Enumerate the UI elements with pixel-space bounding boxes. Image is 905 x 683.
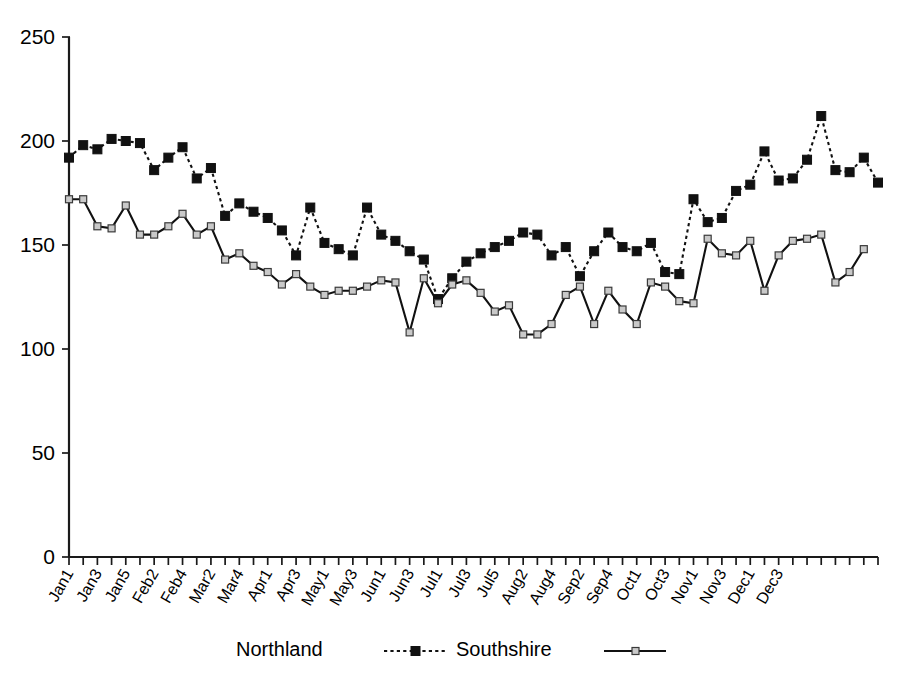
x-axis-tick-label: Mar2	[186, 566, 219, 606]
data-point	[435, 300, 442, 307]
data-point	[263, 213, 272, 222]
data-point	[165, 223, 172, 230]
data-point	[633, 321, 640, 328]
data-point	[206, 164, 215, 173]
data-point	[846, 269, 853, 276]
data-point	[717, 213, 726, 222]
x-axis-tick-label: Aug2	[497, 566, 530, 607]
data-point	[690, 300, 697, 307]
x-axis-tick-label: May1	[298, 566, 332, 608]
data-point	[65, 153, 74, 162]
data-point	[632, 247, 641, 256]
data-point	[392, 279, 399, 286]
data-point	[504, 236, 513, 245]
data-point	[107, 134, 116, 143]
x-axis-tick-label: Jul1	[416, 566, 445, 600]
y-axis: 050100150200250	[20, 25, 70, 568]
data-point	[462, 257, 471, 266]
data-point	[108, 225, 115, 232]
legend-label-northland: Northland	[236, 638, 323, 660]
data-point	[364, 283, 371, 290]
x-axis-tick-label: May3	[326, 566, 360, 608]
data-point	[547, 251, 556, 260]
x-axis-tick-label: Aug4	[526, 566, 559, 607]
data-point	[534, 331, 541, 338]
x-axis-tick-label: Oct1	[613, 566, 645, 604]
x-axis-tick-label: Jun1	[357, 566, 389, 605]
data-point	[618, 243, 627, 252]
data-point	[646, 238, 655, 247]
data-point	[235, 199, 244, 208]
data-point	[236, 250, 243, 257]
data-point	[575, 272, 584, 281]
data-point	[349, 287, 356, 294]
series-markers-southshire	[66, 196, 868, 338]
data-point	[774, 176, 783, 185]
data-point	[135, 139, 144, 148]
data-point	[66, 196, 73, 203]
y-axis-tick-label: 100	[20, 337, 55, 360]
x-axis-tick-label: Jul5	[473, 566, 502, 600]
data-point	[80, 196, 87, 203]
series-layer	[65, 112, 883, 338]
data-point	[121, 137, 130, 146]
x-axis-tick-label: Jun3	[385, 566, 417, 605]
data-point	[860, 246, 867, 253]
data-point	[576, 283, 583, 290]
x-axis-tick-label: Nov3	[696, 566, 729, 607]
legend-label-southshire: Southshire	[456, 638, 552, 660]
x-axis-tick-label: Sep2	[554, 566, 587, 607]
data-point	[760, 147, 769, 156]
data-point	[221, 211, 230, 220]
x-axis-tick-label: Dec3	[753, 566, 786, 607]
data-point	[363, 203, 372, 212]
data-point	[703, 218, 712, 227]
data-point	[477, 289, 484, 296]
data-point	[307, 283, 314, 290]
data-point	[178, 143, 187, 152]
legend-swatch-marker-southshire	[632, 648, 639, 655]
data-point	[747, 237, 754, 244]
data-point	[335, 287, 342, 294]
y-axis-tick-label: 0	[43, 545, 55, 568]
data-point	[151, 231, 158, 238]
x-axis-tick-label: Feb4	[157, 566, 190, 606]
data-point	[647, 279, 654, 286]
data-point	[193, 231, 200, 238]
data-point	[250, 262, 257, 269]
y-axis-tick-label: 150	[20, 233, 55, 256]
x-axis-tick-label: Jan3	[73, 566, 105, 605]
data-point	[320, 238, 329, 247]
data-point	[874, 178, 883, 187]
x-axis-tick-label: Jan5	[101, 566, 133, 605]
data-point	[803, 155, 812, 164]
data-point	[378, 277, 385, 284]
data-point	[293, 271, 300, 278]
data-point	[817, 112, 826, 121]
data-point	[463, 277, 470, 284]
data-point	[845, 168, 854, 177]
data-point	[277, 226, 286, 235]
data-point	[377, 230, 386, 239]
data-point	[476, 249, 485, 258]
data-point	[222, 256, 229, 263]
data-point	[662, 283, 669, 290]
data-point	[94, 223, 101, 230]
data-point	[619, 306, 626, 313]
data-point	[519, 228, 528, 237]
data-point	[732, 186, 741, 195]
legend-swatch-marker-northland	[411, 647, 420, 656]
data-point	[321, 291, 328, 298]
data-point	[164, 153, 173, 162]
data-point	[419, 255, 428, 264]
data-point	[249, 207, 258, 216]
data-point	[420, 275, 427, 282]
data-point	[490, 243, 499, 252]
data-point	[831, 166, 840, 175]
data-point	[562, 291, 569, 298]
data-point	[746, 180, 755, 189]
x-axis-tick-label: Jan1	[45, 566, 77, 605]
x-axis-tick-label: Sep4	[583, 566, 616, 607]
data-point	[733, 252, 740, 259]
data-point	[136, 231, 143, 238]
